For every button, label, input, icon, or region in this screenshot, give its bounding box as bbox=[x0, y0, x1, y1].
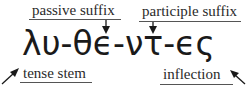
arrows-layer bbox=[0, 0, 247, 86]
morphology-diagram: passive suffix participle suffix λυ-θϵ-ν… bbox=[0, 0, 247, 86]
tense-stem-arrow-icon bbox=[2, 68, 19, 84]
inflection-arrow-icon bbox=[230, 70, 245, 84]
participle-suffix-arrow-icon bbox=[149, 22, 157, 34]
passive-suffix-arrow-icon bbox=[102, 20, 110, 34]
